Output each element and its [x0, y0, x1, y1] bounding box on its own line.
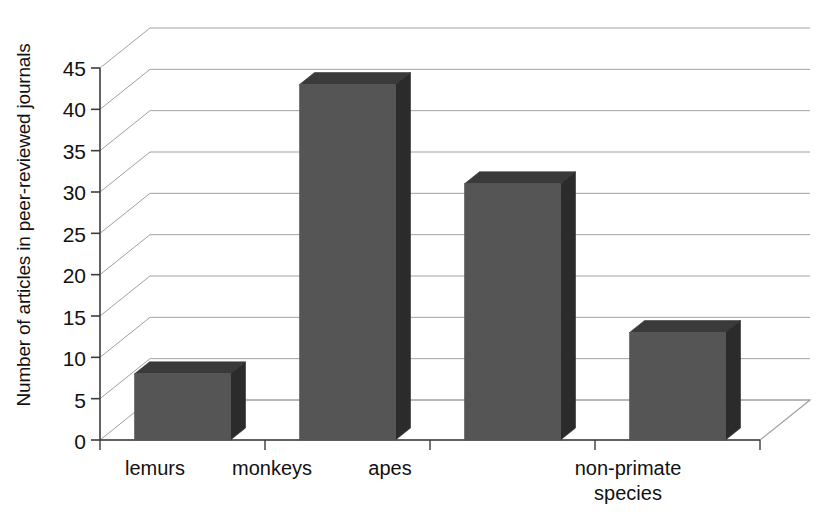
gridline-side-45 [100, 28, 150, 68]
plot-area [0, 0, 816, 525]
x-tick-label-apes-line1: apes [368, 457, 411, 479]
x-axis-tick-labels: lemurs monkeys apes non-primate species [0, 448, 816, 518]
x-tick-label-monkeys: monkeys [212, 456, 332, 481]
bar-lemurs [135, 362, 246, 440]
bar-side-face [396, 73, 411, 440]
bar-front-face [630, 333, 726, 440]
x-tick-label-apes: apes [330, 456, 450, 481]
gridline-side-15 [100, 276, 150, 316]
bar-monkeys [300, 73, 411, 440]
x-tick-label-non-primate-line2: species [538, 481, 718, 506]
bar-side-face [726, 321, 741, 440]
bar-top-face [630, 321, 741, 333]
bar-front-face [300, 85, 396, 440]
x-tick-label-lemurs: lemurs [95, 456, 215, 481]
x-tick-label-non-primate-species: non-primate species [538, 456, 718, 506]
bar-non-primate-species [630, 321, 741, 440]
x-tick-label-monkeys-line1: monkeys [232, 457, 312, 479]
bar-top-face [135, 362, 246, 374]
x-tick-label-lemurs-line1: lemurs [125, 457, 185, 479]
gridline-side-20 [100, 235, 150, 275]
gridline-side-25 [100, 193, 150, 233]
bar-chart: Number of articles in peer-reviewed jour… [0, 0, 816, 525]
bar-side-face [561, 172, 576, 440]
bar-front-face [465, 184, 561, 440]
bar-front-face [135, 374, 231, 440]
gridline-side-40 [100, 69, 150, 109]
bar-series [135, 73, 741, 440]
bar-apes [465, 172, 576, 440]
bar-side-face [231, 362, 246, 440]
gridline-side-35 [100, 111, 150, 151]
gridline-side-10 [100, 317, 150, 357]
bar-top-face [300, 73, 411, 85]
gridline-side-30 [100, 152, 150, 192]
x-tick-label-non-primate-line1: non-primate [575, 457, 682, 479]
bar-top-face [465, 172, 576, 184]
